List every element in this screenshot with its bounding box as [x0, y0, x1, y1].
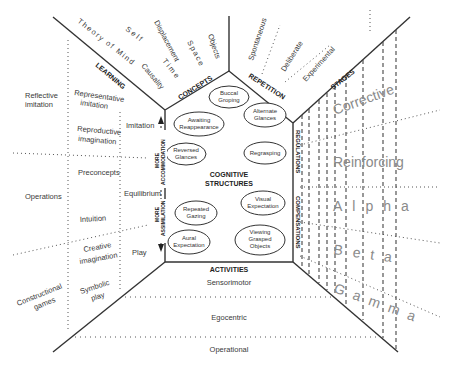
section-activities: ACTIVITIES — [210, 266, 249, 273]
learning-operations: Operations — [25, 192, 62, 201]
learning-imitation: Imitation — [126, 121, 154, 130]
compensation-alpha: Alpha — [333, 198, 419, 214]
cloud-regrasping: Regrasping — [250, 150, 281, 156]
cloud-buccal-groping-1: Buccal — [220, 90, 238, 96]
repetition-experimental: Experimental — [301, 45, 337, 84]
learning-reflective-imitation-2: imitation — [25, 100, 53, 109]
concept-objects: Objects — [206, 33, 222, 60]
learning-preconcepts: Preconcepts — [78, 168, 120, 177]
learning-outer-column: Reflective imitation Operations Construc… — [15, 91, 63, 312]
regulation-reinforcing: Reinforcing — [333, 154, 404, 170]
arrow-down-icon — [158, 244, 164, 252]
accommodation-assimilation-axis: MORE ACCOMMODATION MORE ASSIMILATION — [154, 116, 167, 252]
section-concepts: CONCEPTS — [177, 74, 214, 101]
cloud-repeated-gazing-2: Gazing — [186, 213, 205, 219]
repetition-items: Spontaneous Deliberate Experimental — [246, 17, 337, 84]
cloud-viewing-grasped-objects-3: Objects — [250, 243, 270, 249]
activity-egocentric: Egocentric — [211, 313, 247, 322]
section-regulations: REGULATIONS — [295, 130, 301, 173]
learning-equilibrium: Equilibrium — [124, 189, 161, 198]
learning-intuition: Intuition — [80, 214, 107, 224]
cloud-visual-expectation-2: Expectation — [247, 203, 278, 209]
activity-levels: Sensorimotor Egocentric Operational — [207, 278, 252, 354]
cloud-buccal-groping-2: Groping — [218, 97, 239, 103]
concept-self: Self — [124, 24, 146, 44]
cloud-alternate-glances-1: Alternate — [253, 108, 278, 114]
cloud-reversed-glances-2: Glances — [175, 154, 197, 160]
center-title-line1: COGNITIVE — [210, 171, 249, 178]
concept-theory-of-mind: Theory of Mind — [76, 16, 138, 67]
concept-causality: Causality — [139, 62, 166, 92]
activity-operational: Operational — [210, 345, 249, 354]
cloud-aural-expectation-2: Expectation — [173, 242, 204, 248]
cloud-reversed-glances-1: Reversed — [173, 147, 199, 153]
activity-sensorimotor: Sensorimotor — [207, 278, 252, 287]
center-title-line2: STRUCTURES — [205, 180, 253, 187]
concept-time: Time — [160, 57, 182, 82]
concept-space: Space — [185, 39, 206, 69]
cognitive-structures-diagram: CONCEPTS REPETITION LEARNING STAGES REGU… — [0, 0, 449, 369]
cloud-repeated-gazing-1: Repeated — [183, 206, 209, 212]
cloud-aural-expectation-1: Aural — [182, 235, 196, 241]
cloud-viewing-grasped-objects-2: Grasped — [248, 236, 271, 242]
section-stages: STAGES — [329, 68, 356, 91]
cloud-alternate-glances-2: Glances — [254, 115, 276, 121]
cloud-awaiting-reappearance-2: Reappearance — [179, 124, 219, 130]
diagram-canvas: CONCEPTS REPETITION LEARNING STAGES REGU… — [0, 0, 449, 369]
cloud-visual-expectation-1: Visual — [255, 196, 271, 202]
section-compensations: COMPENSATIONS — [295, 196, 301, 249]
repetition-deliberate: Deliberate — [279, 39, 305, 73]
compensation-beta: Beta — [333, 241, 403, 266]
learning-play: Play — [132, 248, 147, 257]
more-accommodation-2: ACCOMMODATION — [160, 139, 166, 185]
repetition-spontaneous: Spontaneous — [246, 17, 268, 62]
learning-middle-column: Representative imitation Reproductive im… — [74, 88, 125, 303]
learning-reproductive-imagination-2: imagination — [78, 134, 117, 146]
learning-reflective-imitation-1: Reflective — [25, 91, 58, 100]
arrow-up-icon — [158, 116, 164, 124]
more-assimilation-2: ASSIMILATION — [160, 200, 166, 236]
cloud-viewing-grasped-objects-1: Viewing — [250, 229, 271, 235]
section-repetition: REPETITION — [247, 72, 286, 101]
cloud-awaiting-reappearance-1: Awaiting — [188, 117, 211, 123]
regulation-levels: Corrective Reinforcing — [331, 81, 404, 170]
